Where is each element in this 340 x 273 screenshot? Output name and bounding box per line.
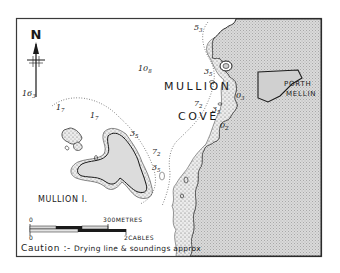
place-name-mullion: MULLION	[164, 80, 231, 93]
place-name-mullion-island: MULLION I.	[38, 195, 88, 204]
place-name-porth: PORTH	[284, 80, 312, 88]
caution-note: Caution :- Drying line & soundings appro…	[21, 243, 201, 253]
scale-metres-label: 300METRES	[103, 216, 142, 223]
caution-text: Drying line & soundings approx	[74, 244, 201, 253]
harbour-chart: N MULLION COVE PORTH MELLIN MULLION I. 1…	[0, 0, 340, 273]
scale-cables-label: 2CABLES	[124, 234, 154, 241]
caution-heading: Caution :-	[21, 243, 71, 253]
north-label: N	[31, 27, 42, 42]
scale-metres-zero: 0	[29, 216, 33, 223]
place-name-mellin: MELLIN	[286, 90, 316, 98]
scale-cables-zero: 0	[29, 234, 33, 241]
